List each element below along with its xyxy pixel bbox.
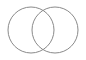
diagram-background xyxy=(0,0,86,60)
venn-diagram-figure xyxy=(0,0,86,60)
venn-diagram-canvas xyxy=(0,0,86,60)
